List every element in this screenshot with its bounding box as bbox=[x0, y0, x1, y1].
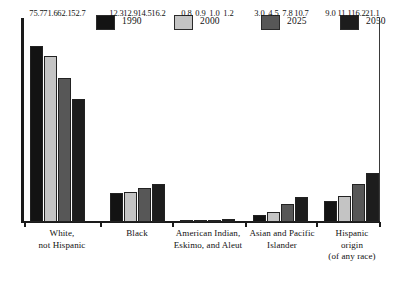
bar-wrap: 16.2 bbox=[352, 18, 365, 222]
bar-value-label: 16.2 bbox=[351, 9, 365, 18]
bar-wrap: 16.2 bbox=[152, 18, 165, 222]
bar bbox=[222, 219, 235, 222]
bar-wrap: 10.7 bbox=[295, 18, 308, 222]
bar bbox=[194, 220, 207, 222]
bar-value-label: 7.8 bbox=[282, 9, 292, 18]
bar-value-label: 52.7 bbox=[71, 9, 85, 18]
bar-value-label: 4.5 bbox=[268, 9, 278, 18]
bar bbox=[44, 56, 57, 222]
x-axis-tick bbox=[379, 222, 381, 227]
bar-wrap: 4.5 bbox=[267, 18, 280, 222]
bar-wrap: 0.8 bbox=[180, 18, 193, 222]
bar bbox=[366, 173, 379, 222]
bar bbox=[152, 184, 165, 222]
bar-value-label: 1.0 bbox=[209, 9, 219, 18]
bar bbox=[72, 99, 85, 222]
bar-group: 75.771.662.152.7 bbox=[30, 18, 86, 222]
bar-wrap: 14.5 bbox=[138, 18, 151, 222]
category-label-line: Hispanic bbox=[292, 228, 395, 240]
plot-area: 75.771.662.152.712.312.914.516.20.80.91.… bbox=[0, 16, 395, 222]
bar-value-label: 0.8 bbox=[181, 9, 191, 18]
bar-group: 0.80.91.01.2 bbox=[180, 18, 236, 222]
bar-wrap: 21.1 bbox=[366, 18, 379, 222]
bar-value-label: 21.1 bbox=[365, 9, 379, 18]
bar bbox=[324, 201, 337, 222]
bar bbox=[352, 184, 365, 222]
bar-value-label: 62.1 bbox=[57, 9, 71, 18]
bar-value-label: 9.0 bbox=[325, 9, 335, 18]
bar-value-label: 0.9 bbox=[195, 9, 205, 18]
bar-group: 3.04.57.810.7 bbox=[253, 18, 309, 222]
bar bbox=[281, 204, 294, 222]
bar bbox=[338, 196, 351, 222]
x-axis-tick bbox=[172, 222, 174, 227]
bar-value-label: 12.9 bbox=[123, 9, 137, 18]
category-labels: White,not HispanicBlackAmerican Indian,E… bbox=[0, 228, 395, 283]
bar bbox=[295, 197, 308, 222]
bar-chart: 1990200020252050 75.771.662.152.712.312.… bbox=[0, 0, 395, 285]
bar-value-label: 1.2 bbox=[223, 9, 233, 18]
bar bbox=[208, 220, 221, 222]
bar bbox=[267, 212, 280, 222]
x-axis-tick bbox=[245, 222, 247, 227]
bar-wrap: 0.9 bbox=[194, 18, 207, 222]
bar bbox=[30, 46, 43, 222]
bar-wrap: 12.9 bbox=[124, 18, 137, 222]
y-axis-spine bbox=[21, 18, 24, 222]
x-axis-tick bbox=[316, 222, 318, 227]
bar-group: 9.011.116.221.1 bbox=[324, 18, 380, 222]
category-label-line: origin bbox=[292, 240, 395, 252]
bar-value-label: 75.7 bbox=[29, 9, 43, 18]
bar-value-label: 11.1 bbox=[337, 9, 351, 18]
x-axis-tick bbox=[24, 222, 26, 227]
bar-wrap: 52.7 bbox=[72, 18, 85, 222]
bar bbox=[138, 188, 151, 222]
bar bbox=[253, 215, 266, 222]
bar-wrap: 1.0 bbox=[208, 18, 221, 222]
bar-value-label: 3.0 bbox=[254, 9, 264, 18]
bar-group: 12.312.914.516.2 bbox=[110, 18, 166, 222]
bar bbox=[124, 192, 137, 222]
category-label-line: not Hispanic bbox=[2, 240, 122, 252]
bar-wrap: 11.1 bbox=[338, 18, 351, 222]
bar bbox=[180, 220, 193, 222]
bar-value-label: 14.5 bbox=[137, 9, 151, 18]
bar-wrap: 1.2 bbox=[222, 18, 235, 222]
bar-value-label: 71.6 bbox=[43, 9, 57, 18]
bar bbox=[110, 193, 123, 222]
bar-wrap: 7.8 bbox=[281, 18, 294, 222]
category-label: Hispanicorigin(of any race) bbox=[292, 228, 395, 263]
bar-value-label: 10.7 bbox=[294, 9, 308, 18]
bar-wrap: 71.6 bbox=[44, 18, 57, 222]
bar-value-label: 16.2 bbox=[151, 9, 165, 18]
bar-wrap: 3.0 bbox=[253, 18, 266, 222]
bar bbox=[58, 78, 71, 222]
category-label-line: (of any race) bbox=[292, 251, 395, 263]
bar-wrap: 9.0 bbox=[324, 18, 337, 222]
x-axis-tick bbox=[100, 222, 102, 227]
bar-value-label: 12.3 bbox=[109, 9, 123, 18]
bar-wrap: 75.7 bbox=[30, 18, 43, 222]
bar-wrap: 12.3 bbox=[110, 18, 123, 222]
bar-wrap: 62.1 bbox=[58, 18, 71, 222]
